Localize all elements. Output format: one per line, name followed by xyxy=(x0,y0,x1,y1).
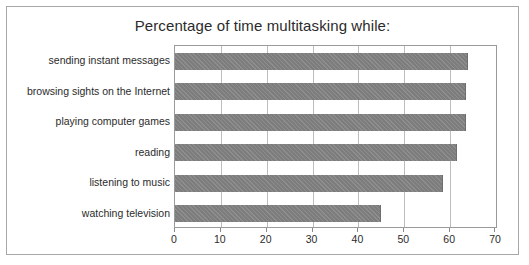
tick-mark-50 xyxy=(403,228,404,232)
plot-area xyxy=(174,45,497,228)
chart-title: Percentage of time multitasking while: xyxy=(7,17,518,34)
tick-label-30: 30 xyxy=(306,233,318,245)
bar-reading xyxy=(175,144,457,161)
bar-row xyxy=(175,46,496,77)
tick-mark-10 xyxy=(220,228,221,232)
tick-label-20: 20 xyxy=(260,233,272,245)
tick-mark-30 xyxy=(312,228,313,232)
bar-series xyxy=(175,46,496,227)
category-label-sending-instant-messages: sending instant messages xyxy=(49,54,170,66)
bar-row xyxy=(175,77,496,108)
tick-mark-40 xyxy=(357,228,358,232)
bar-row xyxy=(175,107,496,138)
tick-label-40: 40 xyxy=(352,233,364,245)
tick-mark-70 xyxy=(494,228,495,232)
tick-mark-20 xyxy=(266,228,267,232)
chart-figure: Percentage of time multitasking while: s… xyxy=(6,6,519,255)
bar-row xyxy=(175,168,496,199)
category-label-watching-television: watching television xyxy=(82,207,170,219)
bar-playing-computer-games xyxy=(175,114,466,131)
bar-sending-instant-messages xyxy=(175,53,468,70)
category-axis-labels: sending instant messages browsing sights… xyxy=(15,45,170,228)
bar-row xyxy=(175,138,496,169)
category-label-playing-computer-games: playing computer games xyxy=(56,115,170,127)
bar-watching-television xyxy=(175,205,381,222)
tick-label-60: 60 xyxy=(443,233,455,245)
tick-mark-0 xyxy=(174,228,175,232)
bar-listening-to-music xyxy=(175,175,443,192)
bar-row xyxy=(175,199,496,230)
tick-label-50: 50 xyxy=(397,233,409,245)
tick-label-70: 70 xyxy=(489,233,501,245)
tick-label-0: 0 xyxy=(171,233,177,245)
category-label-listening-to-music: listening to music xyxy=(89,176,170,188)
category-label-browsing-sights-on-the-internet: browsing sights on the Internet xyxy=(27,85,170,97)
bar-browsing-sights-on-the-internet xyxy=(175,83,466,100)
tick-label-10: 10 xyxy=(214,233,226,245)
category-label-reading: reading xyxy=(135,146,170,158)
value-axis: 010203040506070 xyxy=(174,228,497,248)
tick-mark-60 xyxy=(449,228,450,232)
